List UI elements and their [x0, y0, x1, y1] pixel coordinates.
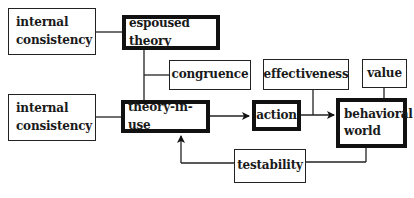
espoused-theory-box: espoused theory: [122, 15, 220, 50]
internal-consistency-box-1: internal consistency: [8, 8, 96, 55]
action-label: action: [256, 107, 297, 124]
testability-box: testability: [234, 149, 306, 183]
congruence-label: congruence: [172, 66, 249, 83]
congruence-box: congruence: [169, 60, 251, 90]
behavioral-world-line1: behavioral: [344, 106, 413, 123]
internal-consistency-line1: internal: [16, 100, 68, 117]
internal-consistency-box-2: internal consistency: [8, 94, 96, 141]
theory-in-use-label: theory-in-use: [128, 99, 203, 134]
behavioral-world-line2: world: [344, 123, 381, 140]
effectiveness-box: effectiveness: [263, 59, 349, 90]
value-box: value: [362, 59, 407, 88]
testability-label: testability: [237, 157, 303, 174]
internal-consistency-line1: internal: [16, 14, 68, 31]
theory-in-use-box: theory-in-use: [121, 100, 210, 133]
internal-consistency-line2: consistency: [16, 32, 92, 49]
internal-consistency-line2: consistency: [16, 118, 92, 135]
espoused-theory-label: espoused theory: [129, 15, 213, 50]
action-box: action: [252, 100, 301, 131]
effectiveness-label: effectiveness: [264, 66, 349, 83]
behavioral-world-box: behavioral world: [336, 98, 407, 148]
value-label: value: [367, 65, 402, 82]
